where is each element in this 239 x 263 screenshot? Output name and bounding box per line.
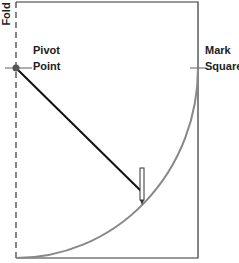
- pivot-point-label: Pivot Point: [33, 44, 61, 73]
- pivot-label-line1: Pivot: [33, 44, 61, 57]
- mark-label-line1: Mark: [205, 44, 239, 57]
- pivot-label-line2: Point: [33, 60, 61, 73]
- mark-square-label: Mark Square: [205, 44, 239, 73]
- diagram-canvas: [0, 0, 239, 263]
- radius-line: [16, 68, 142, 192]
- pivot-dot: [13, 65, 20, 72]
- arc-curve: [16, 68, 198, 258]
- mark-label-line2: Square: [205, 60, 239, 73]
- paper-outline: [16, 2, 198, 258]
- pencil-icon: [140, 168, 144, 205]
- fold-label: Fold: [0, 2, 12, 25]
